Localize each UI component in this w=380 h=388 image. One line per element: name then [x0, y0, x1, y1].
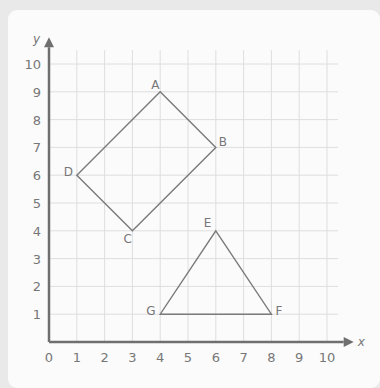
y-tick-label: 10	[24, 57, 41, 72]
vertex-label-c: C	[123, 232, 131, 246]
y-tick-label: 9	[33, 85, 41, 100]
x-tick-label: 10	[319, 350, 336, 365]
y-tick-label: 7	[33, 140, 41, 155]
y-tick-label: 2	[33, 279, 41, 294]
y-axis-label: y	[32, 32, 41, 46]
x-tick-label: 9	[295, 350, 303, 365]
y-axis-arrow-icon	[44, 37, 54, 47]
x-tick-label: 6	[212, 350, 220, 365]
x-tick-label: 7	[239, 350, 247, 365]
x-tick-label: 1	[73, 350, 81, 365]
vertex-label-a: A	[151, 78, 160, 92]
x-axis-arrow-icon	[344, 337, 354, 347]
x-axis-label: x	[357, 335, 366, 349]
x-tick-label: 0	[45, 350, 53, 365]
vertex-label-d: D	[64, 165, 73, 179]
y-tick-label: 4	[33, 224, 41, 239]
y-tick-label: 3	[33, 252, 41, 267]
vertex-label-e: E	[204, 216, 212, 230]
y-tick-label: 1	[33, 307, 41, 322]
vertex-label-b: B	[219, 135, 227, 149]
shape-quadrilateral-abcd	[77, 92, 216, 231]
x-tick-label: 8	[267, 350, 275, 365]
x-tick-label: 2	[100, 350, 108, 365]
vertex-label-g: G	[146, 304, 155, 318]
vertex-label-f: F	[275, 304, 282, 318]
y-tick-label: 5	[33, 196, 41, 211]
x-tick-label: 5	[184, 350, 192, 365]
x-tick-label: 3	[128, 350, 136, 365]
y-tick-label: 6	[33, 168, 41, 183]
y-tick-label: 8	[33, 113, 41, 128]
x-tick-label: 4	[156, 350, 164, 365]
